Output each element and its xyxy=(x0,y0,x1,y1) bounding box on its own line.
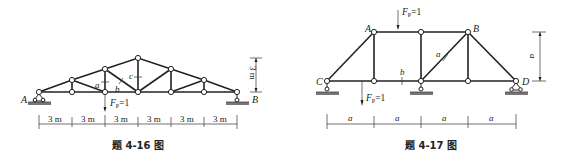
span-dimension xyxy=(39,115,237,129)
member-label-c: c xyxy=(129,71,133,81)
node-label-a: A xyxy=(364,23,372,34)
height-dim-label-right: a xyxy=(528,54,538,59)
member-label-a-right: a xyxy=(436,49,441,59)
label-b-support: B xyxy=(252,94,258,105)
span-dim-right-2: a xyxy=(395,113,400,123)
figures-canvas: A B a b c FP=1 3 m xyxy=(0,0,566,160)
label-a-support: A xyxy=(20,94,28,105)
height-dim-label: 3 m xyxy=(248,66,258,80)
load-arrow-bottom-icon xyxy=(361,81,364,106)
load-label-top: FP=1 xyxy=(401,7,422,18)
span-dim-6: 3 m xyxy=(213,114,227,124)
caption-4-17: 题 4-17 图 xyxy=(405,140,457,151)
caption-4-16: 题 4-16 图 xyxy=(112,140,164,151)
span-dim-5: 3 m xyxy=(180,114,194,124)
member-label-b: b xyxy=(115,84,120,94)
load-arrow-icon xyxy=(104,95,107,112)
span-dimension-right xyxy=(327,114,516,129)
support-a-icon xyxy=(28,94,51,105)
truss-4-17: A B C D a b FP=1 FP=1 a xyxy=(316,7,546,151)
span-dim-1: 3 m xyxy=(48,114,62,124)
node-label-c: C xyxy=(316,76,323,87)
span-dim-right-1: a xyxy=(348,113,353,123)
member-label-b-right: b xyxy=(400,67,405,77)
span-dim-right-4: a xyxy=(489,113,494,123)
span-dim-4: 3 m xyxy=(147,114,161,124)
load-label-bottom: FP=1 xyxy=(365,93,386,104)
load-arrow-top-icon xyxy=(397,10,400,30)
member-label-a: a xyxy=(95,80,100,90)
support-b-icon xyxy=(226,94,249,105)
span-dim-3: 3 m xyxy=(114,114,128,124)
load-label: FP=1 xyxy=(109,98,130,109)
span-dim-right-3: a xyxy=(442,113,447,123)
support-mid-icon xyxy=(410,84,433,95)
span-dim-2: 3 m xyxy=(81,114,95,124)
node-label-d: D xyxy=(521,76,530,87)
node-label-b: B xyxy=(473,23,479,34)
truss-4-16: A B a b c FP=1 3 m xyxy=(20,55,262,151)
